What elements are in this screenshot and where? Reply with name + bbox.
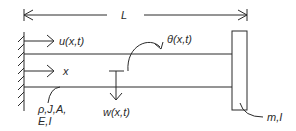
beam-diagram: L u(x,t) x ρ,J,A, E,I θ(x,t) [0,0,296,131]
axial-displacement-arrow: u(x,t) [24,35,84,47]
beam-props-line2: E,I [38,115,51,127]
x-label: x [62,65,69,77]
mass-leader [240,103,263,117]
tip-mass: m,I [232,31,282,123]
rotation-arrow: θ(x,t) [128,33,192,71]
props-leader [48,87,60,103]
fixed-wall [18,32,24,111]
beam-props-line1: ρ,J,A, [37,103,66,115]
tip-mass-label: m,I [267,111,282,123]
theta-label: θ(x,t) [167,33,192,45]
u-label: u(x,t) [59,35,84,47]
length-label: L [121,9,127,21]
length-dimension: L [24,9,247,21]
w-label: w(x,t) [103,106,130,118]
transverse-displacement-arrow: w(x,t) [103,71,130,118]
x-axis-arrow: x [24,65,69,77]
